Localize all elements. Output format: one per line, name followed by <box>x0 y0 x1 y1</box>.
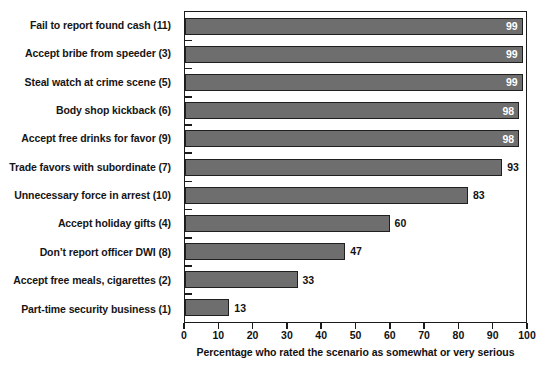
category-label: Unnecessary force in arrest (10) <box>14 190 171 201</box>
category-label-row: Accept bribe from speeder (3) <box>0 39 178 67</box>
bar-value-label: 99 <box>506 49 518 60</box>
category-label: Accept free drinks for favor (9) <box>21 133 171 144</box>
category-label-row: Don’t report officer DWI (8) <box>0 238 178 266</box>
category-label-row: Unnecessary force in arrest (10) <box>0 181 178 209</box>
x-axis-tick-label: 70 <box>418 330 430 341</box>
bar[interactable] <box>185 243 345 260</box>
bar-value-label: 60 <box>395 218 407 229</box>
category-label: Steal watch at crime scene (5) <box>25 77 171 88</box>
category-label-row: Trade favors with subordinate (7) <box>0 153 178 181</box>
bar-value-label: 83 <box>473 190 485 201</box>
category-label: Don’t report officer DWI (8) <box>40 247 171 258</box>
category-axis-labels: Fail to report found cash (11) Accept br… <box>0 11 178 323</box>
category-label-row: Accept free drinks for favor (9) <box>0 124 178 152</box>
category-label: Trade favors with subordinate (7) <box>9 162 171 173</box>
bar[interactable]: 98 <box>185 130 519 147</box>
bar[interactable] <box>185 215 390 232</box>
bar-row: 99 <box>185 68 526 96</box>
category-label-row: Fail to report found cash (11) <box>0 11 178 39</box>
bar[interactable] <box>185 187 468 204</box>
plot-area: 9999999898938360473313 <box>184 11 527 323</box>
x-axis-tick-label: 80 <box>453 330 465 341</box>
x-axis-tick-label: 40 <box>315 330 327 341</box>
bar[interactable]: 99 <box>185 74 523 91</box>
category-label: Fail to report found cash (11) <box>30 20 171 31</box>
bar-row: 93 <box>185 153 526 181</box>
category-label: Body shop kickback (6) <box>56 105 171 116</box>
bar[interactable]: 98 <box>185 102 519 119</box>
x-axis-tick-label: 100 <box>518 330 536 341</box>
bar-row: 98 <box>185 125 526 153</box>
bar[interactable] <box>185 159 502 176</box>
x-axis-tick-label: 90 <box>487 330 499 341</box>
x-axis-tick-label: 30 <box>281 330 293 341</box>
bar-row: 33 <box>185 266 526 294</box>
x-axis-tick-labels: 0102030405060708090100 <box>184 330 527 344</box>
category-label-row: Part-time security business (1) <box>0 295 178 323</box>
bar-value-label: 47 <box>350 246 362 257</box>
category-label: Accept free meals, cigarettes (2) <box>13 275 171 286</box>
bar-row: 99 <box>185 12 526 40</box>
bar-row: 60 <box>185 209 526 237</box>
bar[interactable]: 99 <box>185 46 523 63</box>
bar-row: 98 <box>185 97 526 125</box>
x-axis-title: Percentage who rated the scenario as som… <box>184 346 527 358</box>
category-label: Accept holiday gifts (4) <box>58 218 171 229</box>
bar-row: 83 <box>185 181 526 209</box>
category-label: Accept bribe from speeder (3) <box>25 48 171 59</box>
x-axis-tick-label: 20 <box>247 330 259 341</box>
category-label: Part-time security business (1) <box>21 304 171 315</box>
bar-value-label: 99 <box>506 21 518 32</box>
bar-value-label: 33 <box>303 275 315 286</box>
bar[interactable]: 99 <box>185 18 523 35</box>
x-axis-tick-label: 60 <box>384 330 396 341</box>
bar-value-label: 93 <box>507 162 519 173</box>
x-axis-tick-label: 50 <box>350 330 362 341</box>
bar-row: 47 <box>185 238 526 266</box>
bar-row: 99 <box>185 40 526 68</box>
x-axis-tick-label: 10 <box>212 330 224 341</box>
bar[interactable] <box>185 271 298 288</box>
bar-value-label: 99 <box>506 77 518 88</box>
bar-value-label: 13 <box>234 303 246 314</box>
bar-value-label: 98 <box>502 105 514 116</box>
bar[interactable] <box>185 299 229 316</box>
category-label-row: Accept holiday gifts (4) <box>0 210 178 238</box>
category-label-row: Accept free meals, cigarettes (2) <box>0 266 178 294</box>
category-label-row: Body shop kickback (6) <box>0 96 178 124</box>
bar-row: 13 <box>185 294 526 322</box>
bars-container: 9999999898938360473313 <box>185 12 526 322</box>
category-label-row: Steal watch at crime scene (5) <box>0 68 178 96</box>
bar-chart: Fail to report found cash (11) Accept br… <box>0 0 550 366</box>
bar-value-label: 98 <box>502 134 514 145</box>
x-axis-tick-label: 0 <box>181 330 187 341</box>
